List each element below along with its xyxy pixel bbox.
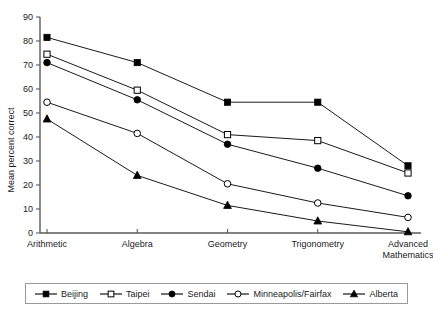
legend-label: Minneapolis/Fairfax [253, 289, 331, 299]
x-axis-label-line2: Mathematics [382, 250, 433, 260]
legend-label: Sendai [187, 289, 215, 299]
y-tick-label: 10 [23, 204, 33, 214]
series-path [47, 54, 408, 173]
chart-legend: BeijingTaipeiSendaiMinneapolis/FairfaxAl… [25, 283, 408, 304]
marker-filled-circle [405, 193, 412, 200]
legend-marker-filled-square [35, 288, 57, 300]
marker-open-square [108, 291, 114, 297]
series-taipei [44, 51, 411, 176]
marker-open-circle [134, 130, 141, 137]
axis-lines [40, 17, 421, 233]
legend-label: Alberta [369, 289, 398, 299]
series-path [47, 102, 408, 217]
x-axis-label: Arithmetic [27, 239, 68, 249]
legend-marker-filled-circle [161, 288, 183, 300]
y-axis-title: Mean percent correct [6, 107, 16, 193]
marker-open-square [44, 51, 50, 57]
marker-open-circle [44, 99, 51, 106]
chart-canvas: 0102030405060708090 ArithmeticAlgebraGeo… [0, 0, 433, 311]
legend-marker-open-square [100, 288, 122, 300]
y-tick-label: 50 [23, 108, 33, 118]
marker-open-square [224, 132, 230, 138]
y-tick-label: 30 [23, 156, 33, 166]
y-tick-label: 70 [23, 60, 33, 70]
legend-label: Taipei [126, 289, 150, 299]
series-beijing [44, 34, 411, 169]
line-chart: 0102030405060708090 ArithmeticAlgebraGeo… [0, 0, 433, 311]
marker-filled-square [224, 99, 230, 105]
x-axis-labels: ArithmeticAlgebraGeometryTrigonometryAdv… [27, 239, 433, 260]
x-axis-label: Trigonometry [291, 239, 344, 249]
marker-filled-circle [314, 165, 321, 172]
legend-marker-open-circle [227, 288, 249, 300]
legend-item: Taipei [100, 288, 150, 300]
series-path [47, 63, 408, 196]
marker-filled-circle [169, 290, 175, 296]
legend-marker-filled-triangle [343, 288, 365, 300]
marker-filled-square [405, 163, 411, 169]
marker-filled-triangle [133, 171, 141, 178]
y-tick-label: 80 [23, 36, 33, 46]
y-tick-label: 60 [23, 84, 33, 94]
legend-item: Beijing [35, 288, 88, 300]
marker-filled-square [44, 34, 50, 40]
marker-filled-circle [44, 59, 51, 66]
x-axis-label: Advanced [388, 239, 428, 249]
marker-filled-circle [224, 141, 231, 148]
x-axis-label: Geometry [208, 239, 248, 249]
legend-label: Beijing [61, 289, 88, 299]
y-tick-label: 90 [23, 12, 33, 22]
legend-item: Minneapolis/Fairfax [227, 288, 331, 300]
y-tick-label: 20 [23, 180, 33, 190]
y-tick-label: 40 [23, 132, 33, 142]
y-axis-ticks: 0102030405060708090 [23, 12, 40, 238]
marker-open-square [405, 170, 411, 176]
marker-filled-triangle [43, 115, 51, 122]
x-axis-label: Algebra [122, 239, 153, 249]
series-lines [43, 34, 412, 235]
marker-filled-square [43, 291, 49, 297]
marker-open-square [134, 87, 140, 93]
marker-filled-circle [134, 97, 141, 104]
y-tick-label: 0 [28, 228, 33, 238]
marker-open-circle [235, 290, 241, 296]
legend-item: Sendai [161, 288, 215, 300]
marker-open-circle [405, 214, 412, 221]
marker-open-circle [224, 181, 231, 188]
marker-filled-square [134, 60, 140, 66]
legend-item: Alberta [343, 288, 398, 300]
marker-open-square [315, 138, 321, 144]
marker-open-circle [314, 200, 321, 207]
marker-filled-square [315, 99, 321, 105]
